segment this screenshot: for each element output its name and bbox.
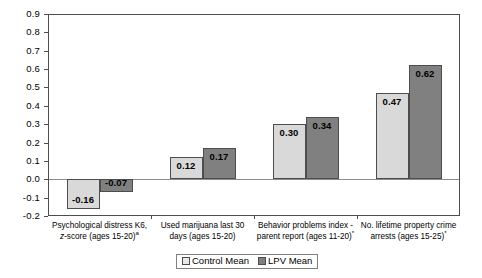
bar-value-label: 0.34 <box>306 121 339 131</box>
category-label: Psychological distress K6,z-score (ages … <box>48 220 151 242</box>
legend-swatch-lpv <box>258 257 266 265</box>
bar-value-label: -0.16 <box>67 195 100 205</box>
category-label-line1: No. lifetime property crime <box>361 221 457 230</box>
category-label: Used marijuana last 30days (ages 15-20) <box>151 220 254 242</box>
y-axis-tick-label: 0.2 <box>0 138 40 148</box>
bar-value-label: 0.30 <box>273 128 306 138</box>
category-label-line2: arrests (ages 15-25)* <box>357 231 460 242</box>
y-axis-tick-label: 0.4 <box>0 101 40 111</box>
category-label-line2-pre: parent report (ages 11-20) <box>257 232 352 241</box>
category-label-line1: Behavior problems index - <box>258 221 353 230</box>
x-axis-tick-mark <box>151 215 152 219</box>
category-label: Behavior problems index -parent report (… <box>254 220 357 242</box>
category-label-line1: Psychological distress K6, <box>52 221 147 230</box>
bar-value-label: 0.17 <box>203 152 236 162</box>
y-axis-tick-label: 0.0 <box>0 174 40 184</box>
bar-lpv <box>409 65 442 179</box>
category-label: No. lifetime property crimearrests (ages… <box>357 220 460 242</box>
y-axis-tick-label: -0.2 <box>0 211 40 221</box>
y-axis-tick-label: 0.6 <box>0 64 40 74</box>
bar-value-label: 0.62 <box>409 69 442 79</box>
legend-swatch-control <box>182 257 190 265</box>
bar-value-label: 0.12 <box>170 161 203 171</box>
category-label-line2: parent report (ages 11-20)* <box>254 231 357 242</box>
legend-label: Control Mean <box>192 256 249 266</box>
category-label-footnote-marker: * <box>444 230 446 236</box>
y-axis-tick-label: 0.5 <box>0 82 40 92</box>
category-label-line2-pre: arrests (ages 15-25) <box>370 232 444 241</box>
bar-chart: 0.90.80.70.60.50.40.30.20.10.0-0.1-0.2 -… <box>0 0 482 278</box>
bar-value-label: -0.07 <box>100 178 133 188</box>
bar-value-label: 0.47 <box>376 97 409 107</box>
category-label-footnote-marker: a <box>136 230 139 236</box>
y-axis-tick-label: -0.1 <box>0 193 40 203</box>
category-labels: Psychological distress K6,z-score (ages … <box>48 220 460 248</box>
x-axis-tick-mark <box>357 215 358 219</box>
legend-label: LPV Mean <box>268 256 312 266</box>
bars-layer: -0.16-0.070.120.170.300.340.470.62 <box>48 14 460 216</box>
y-axis-tick-label: 0.3 <box>0 119 40 129</box>
y-axis-tick-label: 0.9 <box>0 9 40 19</box>
chart-legend: Control MeanLPV Mean <box>176 254 318 269</box>
legend-item: Control Mean <box>182 256 249 266</box>
category-label-line2-post: -score (ages 15-20) <box>64 232 135 241</box>
category-label-line2-pre: days (ages 15-20) <box>170 232 236 241</box>
y-axis: 0.90.80.70.60.50.40.30.20.10.0-0.1-0.2 <box>0 14 48 216</box>
y-axis-tick-label: 0.1 <box>0 156 40 166</box>
category-label-footnote-marker: * <box>352 230 354 236</box>
category-label-line2: days (ages 15-20) <box>151 231 254 242</box>
category-label-line2: z-score (ages 15-20)a <box>48 231 151 242</box>
y-axis-tick-label: 0.8 <box>0 27 40 37</box>
legend-item: LPV Mean <box>258 256 312 266</box>
x-axis-tick-mark <box>254 215 255 219</box>
category-label-line1: Used marijuana last 30 <box>161 221 245 230</box>
y-axis-tick-label: 0.7 <box>0 46 40 56</box>
